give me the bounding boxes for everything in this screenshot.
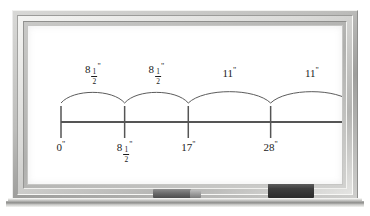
hop-arc-0 bbox=[61, 92, 125, 103]
number-line-diagram bbox=[28, 26, 343, 185]
label-whole: 11 bbox=[305, 68, 316, 79]
inch-symbol: " bbox=[161, 63, 164, 71]
hop-arc-2 bbox=[188, 92, 270, 103]
fraction-denominator: 2 bbox=[123, 156, 129, 164]
fraction-denominator: 2 bbox=[155, 78, 161, 86]
whiteboard-frame-middle: 812"812"11"11" 0"812"17"28"39" bbox=[17, 15, 353, 195]
inch-symbol: " bbox=[97, 63, 100, 71]
inch-symbol: " bbox=[129, 141, 132, 149]
hop-label-2: 11" bbox=[223, 68, 237, 79]
whiteboard-surface: 812"812"11"11" 0"812"17"28"39" bbox=[27, 25, 343, 185]
tick-label-2: 17" bbox=[181, 142, 195, 153]
inch-symbol: " bbox=[233, 67, 236, 75]
whiteboard-frame-outer: 812"812"11"11" 0"812"17"28"39" bbox=[12, 10, 358, 200]
dry-erase-marker[interactable] bbox=[153, 189, 191, 198]
inch-symbol: " bbox=[275, 141, 278, 149]
tick-label-1: 812" bbox=[117, 142, 133, 162]
tick-label-0: 0" bbox=[57, 142, 66, 153]
hop-arcs-group bbox=[61, 92, 343, 105]
marker-tray-shadow bbox=[6, 205, 364, 207]
whiteboard-eraser-top-face bbox=[268, 184, 314, 188]
hop-label-0: 812" bbox=[85, 64, 101, 84]
hop-arc-3 bbox=[271, 92, 343, 103]
fraction-denominator: 2 bbox=[92, 78, 98, 86]
inch-symbol: " bbox=[62, 141, 65, 149]
inch-symbol: " bbox=[315, 67, 318, 75]
hop-label-3: 11" bbox=[305, 68, 319, 79]
hop-label-1: 812" bbox=[149, 64, 165, 84]
label-whole: 28 bbox=[264, 142, 275, 153]
tick-label-3: 28" bbox=[264, 142, 278, 153]
screenshot-root: 812"812"11"11" 0"812"17"28"39" bbox=[0, 0, 370, 216]
hop-arc-1 bbox=[125, 92, 189, 103]
label-whole: 11 bbox=[223, 68, 234, 79]
dry-erase-marker-cap[interactable] bbox=[190, 190, 201, 198]
label-whole: 17 bbox=[181, 142, 192, 153]
inch-symbol: " bbox=[192, 141, 195, 149]
whiteboard-frame-inner: 812"812"11"11" 0"812"17"28"39" bbox=[23, 21, 347, 189]
